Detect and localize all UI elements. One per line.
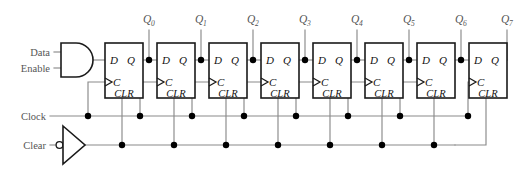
output-label-q7-sub: 7 bbox=[509, 19, 513, 28]
junction-clear-5 bbox=[379, 142, 385, 148]
junction-clock-3 bbox=[241, 113, 247, 119]
junction-clock-7 bbox=[465, 113, 471, 119]
flipflop-5-pin-q: Q bbox=[387, 54, 395, 66]
flipflop-6-pin-c: C bbox=[425, 76, 433, 88]
flipflop-7-pin-q: Q bbox=[491, 54, 499, 66]
junction-q2 bbox=[250, 57, 256, 63]
output-label-q2-sub: 2 bbox=[255, 19, 259, 28]
flipflop-4-pin-clr: CLR bbox=[322, 88, 342, 99]
flipflop-3[interactable]: D Q C CLR bbox=[261, 43, 299, 99]
schematic-svg: D Q C CLR D Q C CLR D Q C CLR D Q bbox=[0, 0, 521, 170]
output-label-q5-sub: 5 bbox=[411, 19, 415, 28]
input-label-data: Data bbox=[30, 47, 50, 58]
junction-clear-2 bbox=[223, 142, 229, 148]
junction-clear-3 bbox=[275, 142, 281, 148]
flipflop-5-pin-c: C bbox=[373, 76, 381, 88]
junction-q1 bbox=[198, 57, 204, 63]
output-label-q1: Q 1 bbox=[195, 13, 207, 28]
junction-q6 bbox=[458, 57, 464, 63]
junction-clear-1 bbox=[171, 142, 177, 148]
flipflop-2-pin-d: D bbox=[213, 54, 222, 66]
input-label-clock: Clock bbox=[21, 111, 47, 122]
wire-clock-ff0 bbox=[88, 82, 105, 116]
output-label-q4-sub: 4 bbox=[359, 19, 363, 28]
flipflop-3-pin-q: Q bbox=[283, 54, 291, 66]
junction-clear-6 bbox=[431, 142, 437, 148]
flipflop-3-pin-d: D bbox=[265, 54, 274, 66]
junction-clear-0 bbox=[119, 142, 125, 148]
flipflop-0-pin-c: C bbox=[113, 76, 121, 88]
flipflop-7-pin-clr: CLR bbox=[478, 88, 498, 99]
output-label-q3-sub: 3 bbox=[306, 19, 311, 28]
output-label-q0: Q 0 bbox=[143, 13, 155, 28]
flipflop-4-pin-c: C bbox=[321, 76, 329, 88]
input-label-clear: Clear bbox=[23, 140, 46, 151]
flipflop-7-pin-d: D bbox=[473, 54, 482, 66]
input-label-enable: Enable bbox=[21, 63, 50, 74]
flipflop-1-pin-d: D bbox=[161, 54, 170, 66]
output-label-q1-sub: 1 bbox=[203, 19, 207, 28]
wire-clr-ff7 bbox=[455, 98, 486, 145]
and-gate[interactable] bbox=[61, 43, 93, 77]
output-label-q3: Q 3 bbox=[299, 13, 311, 28]
flipflop-0-pin-clr: CLR bbox=[114, 88, 134, 99]
junction-q0 bbox=[146, 57, 152, 63]
junction-clock-0 bbox=[85, 113, 91, 119]
output-label-q6: Q 6 bbox=[455, 13, 467, 28]
junction-clock-2 bbox=[189, 113, 195, 119]
flipflop-0-pin-q: Q bbox=[127, 54, 135, 66]
output-label-q7: Q 7 bbox=[501, 13, 513, 28]
junction-clock-5 bbox=[345, 113, 351, 119]
output-label-q6-sub: 6 bbox=[463, 19, 467, 28]
flipflop-2[interactable]: D Q C CLR bbox=[209, 43, 247, 99]
output-label-q4: Q 4 bbox=[351, 13, 363, 28]
flipflop-1-pin-q: Q bbox=[179, 54, 187, 66]
flipflop-3-pin-c: C bbox=[269, 76, 277, 88]
flipflop-2-pin-clr: CLR bbox=[218, 88, 238, 99]
flipflop-3-pin-clr: CLR bbox=[270, 88, 290, 99]
junction-q3 bbox=[302, 57, 308, 63]
circuit-diagram-canvas: D Q C CLR D Q C CLR D Q C CLR D Q bbox=[0, 0, 521, 170]
flipflop-5-pin-clr: CLR bbox=[374, 88, 394, 99]
clear-inverter[interactable] bbox=[56, 126, 85, 164]
output-label-q5: Q 5 bbox=[403, 13, 415, 28]
inverter-triangle-icon bbox=[63, 126, 85, 164]
junction-q5 bbox=[406, 57, 412, 63]
flipflop-5-pin-d: D bbox=[369, 54, 378, 66]
flipflop-6-pin-d: D bbox=[421, 54, 430, 66]
junction-clear-4 bbox=[327, 142, 333, 148]
flipflop-6[interactable]: D Q C CLR bbox=[417, 43, 455, 99]
flipflop-6-pin-clr: CLR bbox=[426, 88, 446, 99]
junction-clock-6 bbox=[397, 113, 403, 119]
junction-q4 bbox=[354, 57, 360, 63]
flipflop-4-pin-d: D bbox=[317, 54, 326, 66]
output-label-q2: Q 2 bbox=[247, 13, 259, 28]
flipflop-0-pin-d: D bbox=[109, 54, 118, 66]
flipflop-5[interactable]: D Q C CLR bbox=[365, 43, 403, 99]
flipflop-0[interactable]: D Q C CLR bbox=[105, 43, 143, 99]
junction-clock-1 bbox=[137, 113, 143, 119]
flipflop-2-pin-q: Q bbox=[231, 54, 239, 66]
flipflop-7-pin-c: C bbox=[477, 76, 485, 88]
flipflop-4-pin-q: Q bbox=[335, 54, 343, 66]
inverter-bubble-icon bbox=[56, 142, 63, 149]
flipflop-2-pin-c: C bbox=[217, 76, 225, 88]
flipflop-1-pin-c: C bbox=[165, 76, 173, 88]
flipflop-1[interactable]: D Q C CLR bbox=[157, 43, 195, 99]
output-label-q0-sub: 0 bbox=[151, 19, 155, 28]
junction-clock-4 bbox=[293, 113, 299, 119]
flipflop-7[interactable]: D Q C CLR bbox=[469, 43, 507, 99]
flipflop-4[interactable]: D Q C CLR bbox=[313, 43, 351, 99]
flipflop-6-pin-q: Q bbox=[439, 54, 447, 66]
flipflop-1-pin-clr: CLR bbox=[166, 88, 186, 99]
